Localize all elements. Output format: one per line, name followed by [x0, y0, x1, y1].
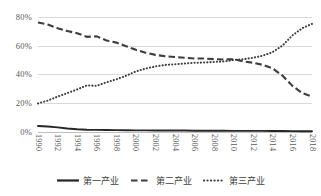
x-tick-label: 2012	[249, 134, 258, 151]
legend-line-dotted-icon	[203, 176, 225, 185]
legend-item[interactable]: 第三产业	[203, 174, 265, 187]
x-tick-label: 1990	[34, 134, 43, 151]
x-tick-label: 2006	[190, 134, 199, 151]
x-tick-label: 2014	[268, 134, 277, 151]
series-line-tertiary	[38, 24, 312, 104]
y-tick-label: 80%	[16, 12, 32, 22]
legend-item[interactable]: 第一产业	[57, 174, 119, 187]
x-tick-label: 2008	[210, 134, 219, 151]
series-layer	[38, 8, 312, 132]
x-tick-label: 2004	[171, 134, 180, 151]
x-tick-label: 1994	[73, 134, 82, 151]
legend-line-dashed-icon	[130, 176, 152, 185]
y-tick-label: 20%	[16, 98, 32, 108]
x-tick-label: 2018	[308, 134, 317, 151]
y-tick-label: 60%	[16, 41, 32, 51]
line-chart: 0%20%40%60%80% 1990199219941996199820002…	[0, 0, 321, 196]
plot-area	[38, 8, 312, 132]
y-axis-labels: 0%20%40%60%80%	[0, 8, 36, 132]
axis-baseline	[38, 132, 312, 133]
x-tick-label: 2002	[151, 134, 160, 151]
series-line-primary	[38, 126, 312, 131]
x-tick-label: 2010	[229, 134, 238, 151]
y-tick-label: 0%	[20, 127, 32, 137]
x-tick-label: 2016	[288, 134, 297, 151]
x-tick-label: 1996	[92, 134, 101, 151]
chart-legend: 第一产业第二产业第三产业	[0, 170, 321, 190]
x-tick-label: 2000	[131, 134, 140, 151]
y-tick-label: 40%	[16, 69, 32, 79]
legend-line-solid-icon	[57, 176, 79, 185]
legend-label: 第三产业	[229, 174, 265, 187]
x-tick-label: 1992	[53, 134, 62, 151]
legend-item[interactable]: 第二产业	[130, 174, 192, 187]
series-line-secondary	[38, 22, 312, 96]
legend-label: 第二产业	[156, 174, 192, 187]
x-axis-labels: 1990199219941996199820002002200420062008…	[38, 134, 312, 168]
x-tick-label: 1998	[112, 134, 121, 151]
legend-label: 第一产业	[83, 174, 119, 187]
